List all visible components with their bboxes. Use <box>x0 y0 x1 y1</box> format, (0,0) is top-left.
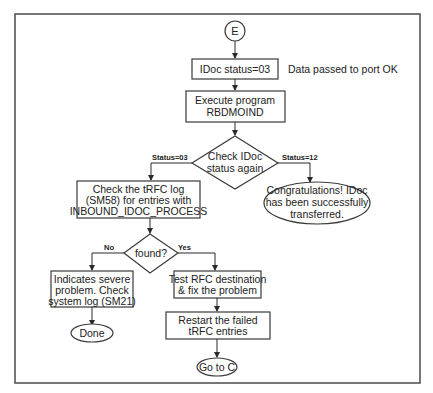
node-check-trfc-line-3: INBOUND_IDOC_PROCESS <box>70 205 208 217</box>
node-congrats-line-3: transferred. <box>290 208 344 220</box>
flowchart: E IDoc status=03 Data passed to port OK … <box>0 0 433 393</box>
node-restart: Restart the failed tRFC entries <box>166 312 270 339</box>
node-execute-program-line-1: Execute program <box>195 94 275 106</box>
edge-status-12 <box>278 163 310 182</box>
node-check-status-decision: Check IDoc status again <box>192 136 278 189</box>
node-severe: Indicates severe problem. Check system l… <box>48 271 136 307</box>
node-congrats-terminal: Congratulations! IDoc has been successfu… <box>264 182 370 224</box>
node-severe-line-3: system log (SM21) <box>48 295 136 307</box>
node-idoc-status-text: IDoc status=03 <box>200 63 270 75</box>
node-check-status-line-2: status again <box>207 162 264 174</box>
node-congrats-line-1: Congratulations! IDoc <box>267 184 368 196</box>
node-execute-program-line-2: RBDMOIND <box>206 106 264 118</box>
node-restart-line-2: tRFC entries <box>189 325 248 337</box>
start-connector: E <box>225 21 245 41</box>
node-found-decision: found? <box>124 234 178 273</box>
node-test-rfc: Test RFC destination & fix the problem <box>169 271 267 298</box>
edge-yes <box>178 253 215 270</box>
node-goto-c-terminal: Go to C <box>197 358 237 376</box>
node-check-status-line-1: Check IDoc <box>208 150 262 162</box>
edge-label-status-03: Status=03 <box>152 153 188 162</box>
node-execute-program: Execute program RBDMOIND <box>186 91 285 122</box>
node-done-terminal: Done <box>71 324 113 342</box>
edge-label-no: No <box>104 243 114 252</box>
node-check-trfc: Check the tRFC log (SM58) for entries wi… <box>70 181 208 218</box>
edge-label-status-12: Status=12 <box>282 153 318 162</box>
node-idoc-status: IDoc status=03 <box>192 59 278 79</box>
edge-status-03 <box>151 163 192 180</box>
node-goto-c-text: Go to C <box>199 361 236 373</box>
idoc-status-note: Data passed to port OK <box>288 63 398 75</box>
node-congrats-line-2: has been successfully <box>266 196 369 208</box>
node-found-text: found? <box>135 247 167 259</box>
node-done-text: Done <box>79 327 104 339</box>
edge-no <box>92 253 124 270</box>
start-connector-label: E <box>231 25 238 37</box>
edge-label-yes: Yes <box>178 243 191 252</box>
node-test-rfc-line-2: & fix the problem <box>178 284 257 296</box>
